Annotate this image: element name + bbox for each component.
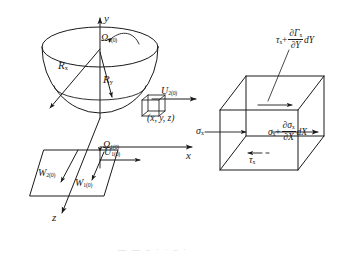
velocity-w-upper-label: W2(0) [38, 168, 55, 179]
tau-top-plus: + [282, 35, 287, 45]
axis-label-y: y [104, 13, 109, 24]
sigma-left-label: σx [196, 126, 204, 137]
sigma-right-fraction: ∂σx∂X [282, 120, 296, 143]
omega-upper-subscript: 2(0) [108, 37, 117, 43]
velocity-w-lower-label: W1(0) [75, 178, 92, 189]
tau-top-numerator-subscript: x [299, 32, 302, 38]
radius-x-subscript: x [65, 64, 68, 71]
sigma-right-denominator: ∂X [282, 132, 296, 143]
axis-label-z: z [52, 212, 56, 223]
sigma-right-numerator-subscript: x [292, 124, 295, 130]
tau-top-fraction: ∂Γx∂Y [288, 28, 303, 51]
axis-label-x: x [186, 150, 191, 161]
radius-y-subscript: y [110, 78, 113, 85]
radius-y-label: Ry [103, 74, 113, 86]
radius-y-symbol: R [103, 73, 110, 85]
sigma-left-subscript: x [201, 130, 204, 136]
tau-bottom-subscript: x [253, 159, 256, 165]
sigma-right-plus: + [275, 127, 280, 137]
point-coordinate-label: (x, y, z) [147, 114, 174, 124]
velocity-u-upper-label: U2(0) [161, 86, 177, 97]
velocity-u-lower-subscript: 1(0) [111, 151, 120, 157]
velocity-u-upper-subscript: 2(0) [168, 90, 177, 96]
tau-top-formula: τx+∂Γx∂YdY [276, 28, 314, 51]
sigma-right-formula: σx+∂σx∂XdX [268, 120, 307, 143]
tau-top-denominator: ∂Y [288, 40, 303, 51]
velocity-w-upper-subscript: 2(0) [46, 172, 55, 178]
velocity-w-lower-arrow [92, 152, 104, 180]
axis-z-line [62, 118, 100, 213]
sigma-right-differential: dX [297, 127, 308, 137]
tau-top-numerator: ∂Γ [289, 28, 299, 38]
velocity-w-lower-subscript: 1(0) [83, 182, 92, 188]
radius-x-symbol: R [58, 59, 65, 71]
figure-caption: — — – · · – · [118, 245, 188, 254]
radius-x-arrow [50, 49, 100, 108]
tau-top-differential: dY [304, 35, 314, 45]
sigma-right-numerator: ∂σ [283, 120, 292, 130]
omega-upper-label: Ω2(0) [101, 33, 117, 44]
velocity-u-lower-label: U1(0) [104, 147, 120, 158]
figure-canvas: y x z Rx Ry Ω2(0) Ω1(0) U2(0) U1(0) W2(0… [0, 0, 354, 257]
radius-x-label: Rx [58, 60, 68, 72]
tau-bottom-label: τx [249, 155, 255, 166]
